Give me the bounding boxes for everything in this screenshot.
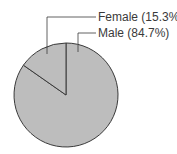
callout-female: Female (15.3% [98,10,177,24]
callout-male: Male (84.7%) [98,26,169,40]
